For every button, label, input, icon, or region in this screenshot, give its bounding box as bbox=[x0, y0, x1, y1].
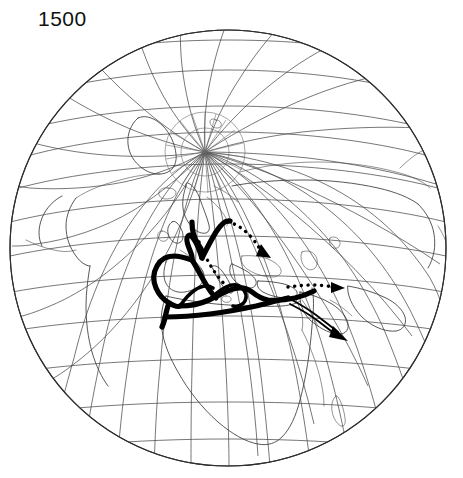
globe-outline bbox=[10, 30, 446, 466]
globe-map bbox=[0, 0, 463, 478]
figure-root: 1500 bbox=[0, 0, 463, 478]
